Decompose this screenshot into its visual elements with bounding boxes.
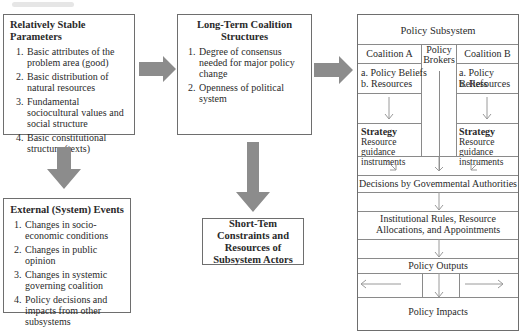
- policy-outputs-label: Policy Outputs: [358, 260, 518, 271]
- block-arrow-right-icon: [314, 56, 354, 84]
- block-arrow-down-icon: [236, 142, 270, 212]
- short-term-constraints-box: Short-Tem Constraints and Resources of S…: [202, 218, 304, 265]
- arrow-down-icon: [434, 273, 444, 299]
- divider: [456, 93, 518, 94]
- divider: [358, 63, 421, 64]
- arrow-down-icon: [384, 97, 394, 121]
- divider: [358, 175, 518, 176]
- block-arrow-right-icon: [139, 56, 177, 82]
- coalition-b-label: Coalition B: [457, 48, 518, 59]
- list-item: Policy decisions and impacts from other …: [24, 294, 125, 327]
- long-term-coalition-box: Long-Term Coalition Structures Degree of…: [177, 14, 312, 135]
- converging-arrows-icon: [358, 157, 518, 175]
- divider: [456, 123, 518, 124]
- coalition-a-strategy-title: Strategy: [361, 126, 397, 137]
- stable-parameters-box: Relatively Stable Parameters Basic attri…: [3, 14, 135, 135]
- list-item: Degree of consensus needed for major pol…: [198, 46, 305, 79]
- policy-brokers-label: Policy Brokers: [422, 45, 456, 65]
- long-term-coalition-title: Long-Term Coalition Structures: [184, 19, 305, 43]
- divider: [456, 63, 518, 64]
- divider: [358, 211, 518, 212]
- coalition-a-resources: b. Resources: [361, 78, 412, 89]
- block-arrow-down-icon: [47, 147, 81, 189]
- external-events-title: External (System) Events: [9, 204, 125, 216]
- list-item: Changes in socio-economic conditions: [24, 219, 125, 241]
- feedback-arrow-right-icon: [465, 279, 505, 289]
- list-item: Changes in systemic governing coalition: [24, 269, 125, 291]
- list-item: Basic attributes of the problem area (go…: [26, 46, 128, 68]
- coalition-a-beliefs: a. Policy Beliefs: [361, 67, 427, 78]
- policy-subsystem-box: Policy Subsystem Coalition A Policy Brok…: [357, 14, 519, 331]
- policy-impacts-label: Policy Impacts: [358, 306, 518, 317]
- arrow-down-icon: [434, 192, 444, 212]
- coalition-b-strategy-title: Strategy: [459, 126, 495, 137]
- arrow-down-icon: [434, 239, 444, 259]
- external-events-box: External (System) Events Changes in soci…: [3, 198, 131, 313]
- list-item: Basic distribution of natural resources: [26, 71, 128, 93]
- policy-subsystem-title: Policy Subsystem: [358, 25, 518, 36]
- divider: [358, 123, 421, 124]
- divider: [459, 273, 460, 297]
- list-item: Openness of political system: [198, 82, 305, 104]
- divider: [456, 44, 457, 156]
- divider: [358, 258, 518, 259]
- header-fragment: [12, 2, 74, 7]
- decisions-label: Decisions by Govemmental Authorities: [358, 178, 518, 189]
- feedback-arrow-left-icon: [360, 279, 402, 289]
- list-item: Changes in public opinion: [24, 244, 125, 266]
- coalition-b-resources: b. Resources: [459, 78, 510, 89]
- divider: [422, 273, 423, 297]
- list-item: Fundamental sociocultural values and soc…: [26, 96, 128, 129]
- institutional-rules-label: Institutional Rules, Resource Allocation…: [360, 213, 516, 235]
- divider: [358, 93, 421, 94]
- arrow-down-icon: [482, 97, 492, 121]
- short-term-constraints-title: Short-Tem Constraints and Resources of S…: [207, 218, 299, 266]
- divider: [358, 297, 518, 298]
- stable-parameters-title: Relatively Stable Parameters: [10, 19, 128, 43]
- coalition-a-label: Coalition A: [358, 48, 421, 59]
